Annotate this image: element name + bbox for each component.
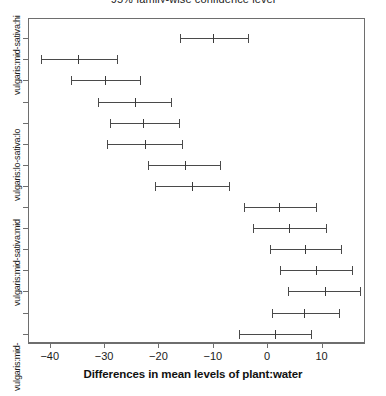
y-tick — [23, 144, 28, 145]
chart-root: 95% family-wise confidence level vulgari… — [0, 0, 386, 396]
y-tick — [23, 102, 28, 103]
confidence-interval-row — [0, 329, 386, 340]
ci-lower-cap — [239, 330, 240, 339]
ci-upper-cap — [311, 330, 312, 339]
ci-center-marker — [145, 140, 146, 149]
chart-title: 95% family-wise confidence level — [0, 0, 386, 3]
ci-lower-cap — [180, 34, 181, 43]
confidence-interval-row — [0, 139, 386, 150]
ci-upper-cap — [117, 55, 118, 64]
x-tick — [267, 343, 268, 348]
ci-lower-cap — [155, 182, 156, 191]
ci-center-marker — [135, 98, 136, 107]
y-tick — [23, 270, 28, 271]
ci-center-marker — [305, 245, 306, 254]
ci-line — [272, 313, 339, 314]
y-tick — [23, 249, 28, 250]
y-tick — [23, 80, 28, 81]
x-tick — [322, 343, 323, 348]
ci-upper-cap — [360, 287, 361, 296]
ci-center-marker — [192, 182, 193, 191]
y-tick — [23, 38, 28, 39]
ci-upper-cap — [316, 203, 317, 212]
y-tick — [23, 207, 28, 208]
ci-upper-cap — [341, 245, 342, 254]
ci-upper-cap — [182, 140, 183, 149]
x-tick-label: −40 — [30, 350, 70, 362]
ci-lower-cap — [280, 266, 281, 275]
x-tick — [158, 343, 159, 348]
y-axis-label: vulgaris:mid-sativa:hi — [12, 16, 22, 96]
confidence-interval-row — [0, 244, 386, 255]
ci-lower-cap — [71, 76, 72, 85]
confidence-interval-row — [0, 265, 386, 276]
confidence-interval-row — [0, 181, 386, 192]
y-tick — [23, 291, 28, 292]
confidence-interval-row — [0, 223, 386, 234]
ci-upper-cap — [171, 98, 172, 107]
y-tick — [23, 186, 28, 187]
x-tick — [50, 343, 51, 348]
ci-line — [110, 123, 178, 124]
x-tick-label: −30 — [84, 350, 124, 362]
ci-upper-cap — [229, 182, 230, 191]
ci-upper-cap — [220, 161, 221, 170]
y-tick — [23, 165, 28, 166]
y-tick — [23, 123, 28, 124]
x-axis-title: Differences in mean levels of plant:wate… — [0, 368, 386, 380]
x-tick-label: 0 — [247, 350, 287, 362]
ci-upper-cap — [140, 76, 141, 85]
x-tick — [104, 343, 105, 348]
confidence-interval-row — [0, 286, 386, 297]
ci-center-marker — [78, 55, 79, 64]
ci-lower-cap — [110, 119, 111, 128]
ci-lower-cap — [98, 98, 99, 107]
x-tick-label: −20 — [138, 350, 178, 362]
ci-upper-cap — [179, 119, 180, 128]
ci-center-marker — [105, 76, 106, 85]
ci-center-marker — [185, 161, 186, 170]
ci-center-marker — [279, 203, 280, 212]
y-axis-label: vulgaris:lo-sativa:lo — [12, 128, 22, 200]
x-tick-label: −10 — [193, 350, 233, 362]
ci-center-marker — [275, 330, 276, 339]
ci-center-marker — [304, 309, 305, 318]
ci-lower-cap — [270, 245, 271, 254]
ci-upper-cap — [326, 224, 327, 233]
confidence-interval-row — [0, 202, 386, 213]
y-tick — [23, 228, 28, 229]
y-tick — [23, 59, 28, 60]
confidence-interval-row — [0, 33, 386, 44]
y-axis-label: vulgaris:mid- — [12, 342, 22, 390]
ci-upper-cap — [248, 34, 249, 43]
ci-center-marker — [289, 224, 290, 233]
y-axis-label: vulgaris:mid-sativa:mid — [12, 219, 22, 306]
ci-lower-cap — [107, 140, 108, 149]
ci-lower-cap — [288, 287, 289, 296]
confidence-interval-row — [0, 118, 386, 129]
confidence-interval-row — [0, 308, 386, 319]
x-axis-line — [28, 343, 365, 344]
y-tick — [23, 313, 28, 314]
confidence-interval-row — [0, 97, 386, 108]
y-tick — [23, 334, 28, 335]
ci-center-marker — [316, 266, 317, 275]
ci-center-marker — [325, 287, 326, 296]
ci-lower-cap — [148, 161, 149, 170]
ci-center-marker — [213, 34, 214, 43]
ci-upper-cap — [339, 309, 340, 318]
ci-upper-cap — [352, 266, 353, 275]
ci-lower-cap — [253, 224, 254, 233]
ci-line — [244, 207, 316, 208]
confidence-interval-row — [0, 54, 386, 65]
ci-lower-cap — [272, 309, 273, 318]
ci-lower-cap — [244, 203, 245, 212]
ci-lower-cap — [41, 55, 42, 64]
confidence-interval-row — [0, 160, 386, 171]
x-tick-label: 10 — [302, 350, 342, 362]
x-tick — [213, 343, 214, 348]
confidence-interval-row — [0, 75, 386, 86]
ci-center-marker — [143, 119, 144, 128]
